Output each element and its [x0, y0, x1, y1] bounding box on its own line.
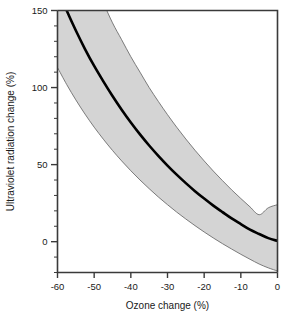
- x-axis-ticks: [58, 273, 278, 279]
- y-tick-label-150: 150: [32, 5, 48, 16]
- x-tick-label-0: 0: [275, 281, 280, 292]
- x-tick-label--40: -40: [124, 281, 138, 292]
- x-tick-label--60: -60: [51, 281, 65, 292]
- y-tick-label-0: 0: [42, 236, 47, 247]
- uncertainty-band: [58, 0, 278, 271]
- x-axis-tick-labels: -60-50-40-30-20-100: [51, 281, 281, 292]
- x-tick-label--10: -10: [234, 281, 248, 292]
- y-axis-title: Ultraviolet radiation change (%): [5, 72, 16, 212]
- x-tick-label--50: -50: [87, 281, 101, 292]
- y-tick-label-50: 50: [37, 159, 48, 170]
- chart-figure: -60-50-40-30-20-100 050100150 Ozone chan…: [0, 0, 302, 327]
- y-axis-ticks: [51, 11, 58, 273]
- x-tick-label--30: -30: [161, 281, 175, 292]
- y-axis-tick-labels: 050100150: [32, 5, 48, 247]
- x-axis-title: Ozone change (%): [126, 300, 209, 311]
- y-tick-label-100: 100: [32, 82, 48, 93]
- ozone-uv-chart: -60-50-40-30-20-100 050100150 Ozone chan…: [0, 0, 302, 327]
- x-tick-label--20: -20: [197, 281, 211, 292]
